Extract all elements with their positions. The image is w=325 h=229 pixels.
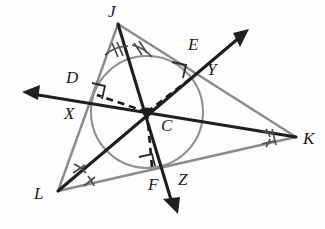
label-C: C <box>161 117 172 134</box>
label-D: D <box>66 69 78 86</box>
label-X: X <box>64 105 74 122</box>
arrowhead-Z <box>163 197 180 214</box>
label-J: J <box>108 3 116 20</box>
label-Z: Z <box>178 171 187 188</box>
arrowhead-Y <box>233 29 249 47</box>
label-L: L <box>34 185 43 202</box>
label-F: F <box>148 176 158 193</box>
triangle-incenter-figure <box>0 0 325 229</box>
triangle-outline <box>58 24 296 191</box>
dashed-radius-C-E <box>147 79 190 112</box>
label-E: E <box>188 36 198 53</box>
triangle-sides <box>58 24 296 191</box>
label-Y: Y <box>207 61 216 78</box>
arrowhead-X <box>22 85 40 100</box>
tick-J-left-2 <box>117 42 123 56</box>
geometry-diagram-canvas: J K L C D E F X Y Z <box>0 0 325 229</box>
label-K: K <box>303 130 314 147</box>
